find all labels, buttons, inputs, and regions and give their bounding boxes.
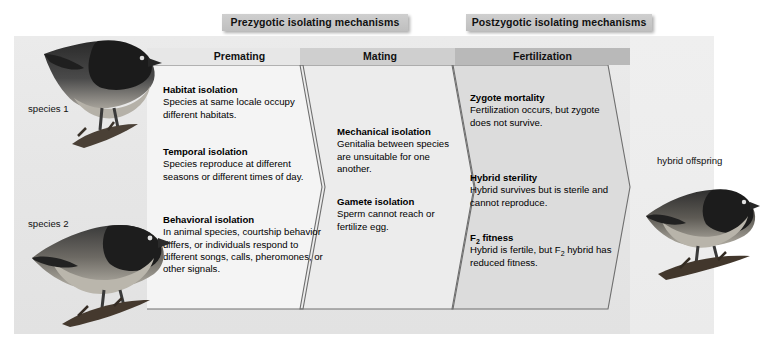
mechanism-title: Habitat isolation [163,84,323,96]
mechanism-text: Fertilization occurs, but zygote does no… [470,104,622,128]
mechanism-title: Behavioral isolation [163,214,335,226]
mechanism-text: Hybrid survives but is sterile and canno… [470,184,628,208]
mechanism-habitat-isolation: Habitat isolation Species at same locale… [163,84,323,121]
mechanism-text: Hybrid is fertile, but F2 hybrid has red… [470,244,628,268]
bird-photo-species-1 [38,32,166,150]
mechanism-text: Genitalia between species are unsuitable… [337,138,465,175]
bird-photo-hybrid-offspring [640,172,760,284]
mechanism-mechanical-isolation: Mechanical isolation Genitalia between s… [337,126,465,175]
mechanism-title: Mechanical isolation [337,126,465,138]
stage-header-mating: Mating [300,48,460,65]
mechanism-hybrid-sterility: Hybrid sterility Hybrid survives but is … [470,172,628,209]
mechanism-f2-fitness: F2 fitness Hybrid is fertile, but F2 hyb… [470,232,628,269]
mechanism-text: Species at same locale occupy different … [163,96,323,120]
mechanism-title: F2 fitness [470,232,628,244]
mechanism-title: Gamete isolation [337,196,465,208]
banner-postzygotic: Postzygotic isolating mechanisms [466,14,652,31]
mechanism-text: In animal species, courtship behavior di… [163,226,335,275]
caption-hybrid-offspring: hybrid offspring [657,155,722,166]
mechanism-gamete-isolation: Gamete isolation Sperm cannot reach or f… [337,196,465,233]
mechanism-title: Zygote mortality [470,92,622,104]
mechanism-behavioral-isolation: Behavioral isolation In animal species, … [163,214,335,275]
stage-header-fertilization: Fertilization [455,48,630,65]
bird-photo-species-2 [22,200,172,328]
mechanism-title: Hybrid sterility [470,172,628,184]
banner-prezygotic: Prezygotic isolating mechanisms [222,14,408,31]
mechanism-title: Temporal isolation [163,146,323,158]
mechanism-text: Sperm cannot reach or fertilize egg. [337,208,465,232]
mechanism-temporal-isolation: Temporal isolation Species reproduce at … [163,146,323,183]
mechanism-zygote-mortality: Zygote mortality Fertilization occurs, b… [470,92,622,129]
mechanism-text: Species reproduce at different seasons o… [163,158,323,182]
